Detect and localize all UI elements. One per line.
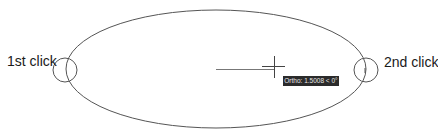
- crosshair-cursor-icon: [262, 56, 285, 78]
- second-click-label: 2nd click: [384, 54, 438, 70]
- first-click-label: 1st click: [7, 53, 57, 69]
- ortho-tooltip: Ortho: 1.5008 < 0°: [283, 76, 339, 86]
